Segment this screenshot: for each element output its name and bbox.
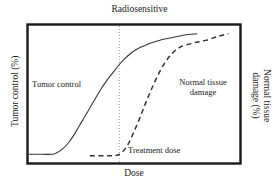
treatment-dose-label: Treatment dose	[128, 146, 180, 156]
normal-tissue-damage-label-line2: damage	[190, 87, 216, 97]
normal-tissue-damage-label: Normal tissuedamage	[168, 78, 238, 97]
radiosensitive-chart-figure: Radiosensitive Tumor control (%) Normal …	[0, 0, 279, 187]
normal-tissue-damage-label-line1: Normal tissue	[179, 77, 226, 87]
tumor-control-label: Tumor control	[32, 80, 81, 90]
